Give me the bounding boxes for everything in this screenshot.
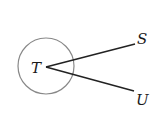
ray-tu <box>46 67 134 91</box>
circle-t <box>18 38 74 94</box>
geometry-diagram: T S U <box>0 0 161 123</box>
label-u: U <box>136 91 150 109</box>
ray-ts <box>46 44 135 67</box>
label-s: S <box>137 30 147 48</box>
diagram-svg: T S U <box>0 0 161 123</box>
label-t: T <box>31 59 42 77</box>
